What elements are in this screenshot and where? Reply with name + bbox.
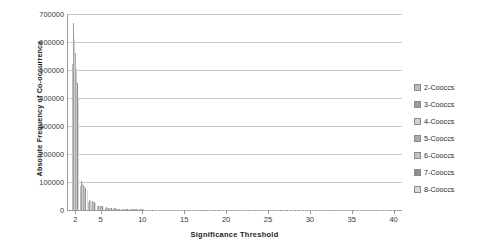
legend-item[interactable]: 3-Cooccs xyxy=(414,96,482,113)
y-tick-label: 100000 xyxy=(20,178,64,187)
x-axis-title: Significance Threshold xyxy=(67,230,402,239)
x-tick xyxy=(310,210,311,214)
legend-item-label: 5-Cooccs xyxy=(424,135,454,142)
legend-item-label: 3-Cooccs xyxy=(424,101,454,108)
x-tick-label: 40 xyxy=(379,215,409,224)
legend-item[interactable]: 8-Cooccs xyxy=(414,181,482,198)
x-tick-label: 30 xyxy=(295,215,325,224)
x-tick xyxy=(142,210,143,214)
y-tick-label: 400000 xyxy=(20,94,64,103)
x-tick xyxy=(184,210,185,214)
x-axis-ticks xyxy=(67,210,402,214)
x-tick xyxy=(394,210,395,214)
legend-item[interactable]: 7-Cooccs xyxy=(414,164,482,181)
legend-swatch-icon xyxy=(414,186,421,193)
y-tick-label: 500000 xyxy=(20,66,64,75)
x-tick-label: 20 xyxy=(211,215,241,224)
y-tick-label: 700000 xyxy=(20,10,64,19)
co-occurrence-frequency-chart: Absolute Frequency of Co-occurrence 0100… xyxy=(0,0,482,251)
x-tick xyxy=(226,210,227,214)
legend-swatch-icon xyxy=(414,169,421,176)
legend-swatch-icon xyxy=(414,135,421,142)
legend-swatch-icon xyxy=(414,84,421,91)
y-tick-label: 600000 xyxy=(20,38,64,47)
x-tick-label: 35 xyxy=(337,215,367,224)
y-tick-label: 300000 xyxy=(20,122,64,131)
legend-item-label: 7-Cooccs xyxy=(424,169,454,176)
legend-swatch-icon xyxy=(414,101,421,108)
x-tick-label: 10 xyxy=(127,215,157,224)
legend-item[interactable]: 5-Cooccs xyxy=(414,130,482,147)
x-tick-label: 15 xyxy=(169,215,199,224)
legend-item-label: 6-Cooccs xyxy=(424,152,454,159)
legend-swatch-icon xyxy=(414,118,421,125)
legend-item[interactable]: 2-Cooccs xyxy=(414,79,482,96)
bars-layer xyxy=(67,14,402,210)
y-axis-tick-labels: 0100000200000300000400000500000600000700… xyxy=(20,14,64,210)
legend-item-label: 4-Cooccs xyxy=(424,118,454,125)
legend-item-label: 8-Cooccs xyxy=(424,186,454,193)
legend-item[interactable]: 4-Cooccs xyxy=(414,113,482,130)
y-tick-label: 200000 xyxy=(20,150,64,159)
x-tick xyxy=(75,210,76,214)
legend-item[interactable]: 6-Cooccs xyxy=(414,147,482,164)
legend-swatch-icon xyxy=(414,152,421,159)
y-tick-label: 0 xyxy=(20,206,64,215)
x-tick xyxy=(268,210,269,214)
x-tick-label: 25 xyxy=(253,215,283,224)
legend: 2-Cooccs3-Cooccs4-Cooccs5-Cooccs6-Cooccs… xyxy=(414,79,482,198)
plot-area xyxy=(67,14,402,210)
x-axis-tick-labels: 2510152025303540 xyxy=(67,215,402,227)
x-tick-label: 5 xyxy=(86,215,116,224)
x-tick xyxy=(101,210,102,214)
x-tick xyxy=(352,210,353,214)
legend-item-label: 2-Cooccs xyxy=(424,84,454,91)
